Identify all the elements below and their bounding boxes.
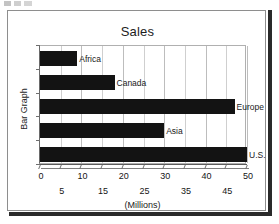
bar-series: AfricaCanadaEuropeAsiaU.S. bbox=[40, 46, 245, 163]
chart-title: Sales bbox=[8, 24, 267, 39]
figure-frame: Sales Bar Graph AfricaCanadaEuropeAsiaU.… bbox=[7, 10, 266, 211]
frame-shadow-bottom bbox=[9, 212, 272, 216]
x-tick-label: 10 bbox=[70, 172, 94, 181]
chart-screenshot: Sales Bar Graph AfricaCanadaEuropeAsiaU.… bbox=[0, 0, 279, 224]
bar bbox=[40, 123, 164, 138]
bar bbox=[40, 75, 115, 90]
bar-label: Europe bbox=[237, 103, 264, 112]
x-tick-label: 5 bbox=[50, 187, 74, 196]
x-tick-label: 20 bbox=[112, 172, 136, 181]
x-tick-label: 15 bbox=[91, 187, 115, 196]
x-tick-label: 45 bbox=[215, 187, 239, 196]
scan-artifact bbox=[4, 1, 32, 6]
y-tick bbox=[36, 140, 40, 141]
y-tick bbox=[36, 116, 40, 117]
bar bbox=[40, 51, 77, 66]
x-tick-label: 40 bbox=[195, 172, 219, 181]
x-axis-line-secondary bbox=[41, 168, 249, 169]
x-tick-label: 0 bbox=[29, 172, 53, 181]
plot-area: AfricaCanadaEuropeAsiaU.S. bbox=[39, 45, 246, 164]
x-tick-label: 30 bbox=[153, 172, 177, 181]
y-tick bbox=[36, 164, 40, 165]
bar bbox=[40, 99, 235, 114]
bar-label: Asia bbox=[166, 127, 183, 136]
bar-label: Africa bbox=[79, 55, 101, 64]
bar-label: U.S. bbox=[249, 151, 266, 160]
bar-label: Canada bbox=[117, 79, 147, 88]
x-axis-title: (Millions) bbox=[39, 200, 246, 210]
bar bbox=[40, 147, 247, 162]
frame-shadow-right bbox=[268, 10, 272, 216]
y-tick bbox=[36, 69, 40, 70]
x-tick-label: 25 bbox=[133, 187, 157, 196]
y-tick bbox=[36, 45, 40, 46]
y-tick bbox=[36, 93, 40, 94]
y-axis-label: Bar Graph bbox=[19, 74, 29, 144]
x-tick-label: 50 bbox=[236, 172, 260, 181]
x-tick-label: 35 bbox=[174, 187, 198, 196]
